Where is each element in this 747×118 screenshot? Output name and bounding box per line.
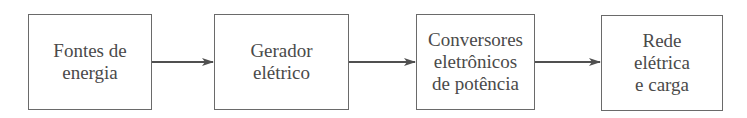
block-label-line: Gerador	[250, 40, 312, 62]
block-energy-sources: Fontes de energia	[28, 14, 152, 110]
block-label-line: elétrico	[253, 62, 310, 84]
block-label-line: Rede	[642, 30, 681, 52]
block-label-line: Fontes de	[53, 40, 126, 62]
block-power-electronic-converters: Conversores eletrônicos de potência	[416, 14, 535, 110]
block-label-line: e carga	[635, 74, 689, 96]
block-label-line: elétrica	[634, 52, 690, 74]
block-label-line: eletrônicos	[434, 51, 517, 73]
block-label-line: de potência	[432, 73, 519, 95]
block-electric-generator: Gerador elétrico	[214, 14, 349, 110]
block-grid-and-load: Rede elétrica e carga	[601, 15, 723, 111]
block-label-line: Conversores	[428, 29, 523, 51]
block-label-line: energia	[62, 62, 118, 84]
